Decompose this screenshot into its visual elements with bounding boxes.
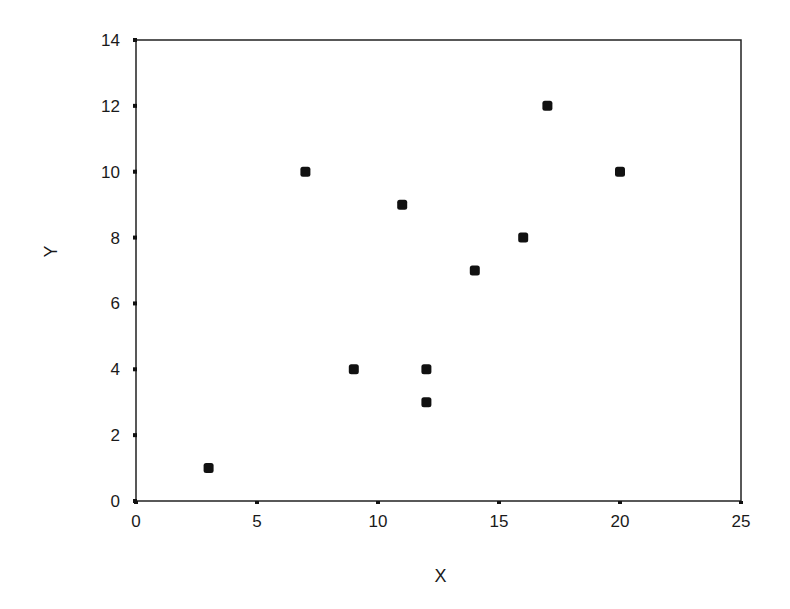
data-point — [615, 167, 625, 177]
x-tick-label: 0 — [131, 512, 140, 531]
y-tick-label: 6 — [111, 294, 120, 313]
y-tick-label: 10 — [101, 163, 120, 182]
x-tick-mark — [618, 501, 622, 504]
y-tick-mark — [133, 367, 137, 371]
x-tick-label: 15 — [490, 512, 509, 531]
y-tick-label: 0 — [111, 492, 120, 511]
y-tick-mark — [133, 38, 137, 42]
y-tick-label: 2 — [111, 426, 120, 445]
data-point — [349, 364, 359, 374]
y-tick-mark — [133, 301, 137, 305]
y-tick-label: 12 — [101, 97, 120, 116]
y-tick-mark — [133, 104, 137, 108]
x-tick-mark — [376, 501, 380, 504]
plot-frame — [136, 40, 741, 501]
x-axis-title: X — [434, 566, 446, 586]
y-axis-title: Y — [41, 245, 61, 257]
data-point — [397, 200, 407, 210]
data-point — [421, 397, 431, 407]
y-tick-label: 14 — [101, 31, 120, 50]
data-point — [470, 266, 480, 276]
y-tick-label: 8 — [111, 229, 120, 248]
x-tick-label: 20 — [611, 512, 630, 531]
y-tick-mark — [133, 170, 137, 174]
x-tick-mark — [739, 501, 743, 504]
y-axis-ticks: 02468101214 — [101, 31, 137, 511]
x-tick-mark — [255, 501, 259, 504]
data-point — [300, 167, 310, 177]
scatter-chart: 02468101214 0510152025 X Y — [0, 0, 790, 609]
x-axis-ticks: 0510152025 — [131, 501, 750, 531]
y-tick-label: 4 — [111, 360, 120, 379]
data-point — [542, 101, 552, 111]
data-point — [421, 364, 431, 374]
x-tick-mark — [134, 501, 138, 504]
x-tick-mark — [497, 501, 501, 504]
x-tick-label: 10 — [369, 512, 388, 531]
data-points — [204, 101, 625, 473]
data-point — [204, 463, 214, 473]
x-tick-label: 5 — [252, 512, 261, 531]
y-tick-mark — [133, 433, 137, 437]
x-tick-label: 25 — [732, 512, 751, 531]
data-point — [518, 233, 528, 243]
y-tick-mark — [133, 236, 137, 240]
